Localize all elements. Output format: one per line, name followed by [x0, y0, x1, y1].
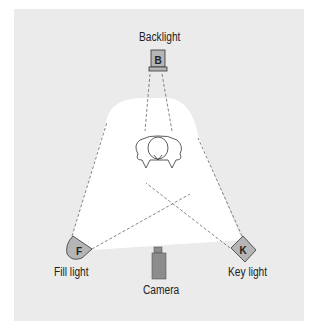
- camera-label: Camera: [143, 283, 179, 297]
- camera-icon: [152, 247, 166, 279]
- backlight-label: Backlight: [139, 30, 180, 44]
- key-light-label: Key light: [228, 265, 267, 279]
- light-area: [72, 98, 242, 250]
- key-light-glyph: K: [239, 245, 247, 256]
- fill-light-glyph: F: [76, 246, 82, 257]
- fill-light-label: Fill light: [54, 265, 89, 279]
- backlight-glyph: B: [154, 55, 161, 66]
- backlight-fixture: B: [149, 50, 167, 71]
